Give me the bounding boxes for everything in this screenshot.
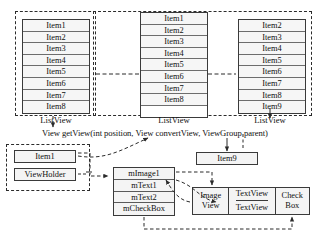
list-item[interactable]: Item1 [141, 13, 207, 25]
list-item[interactable]: Item4 [141, 48, 207, 60]
check-box-line2: Box [285, 201, 299, 211]
list-item[interactable]: Item5 [23, 66, 89, 78]
text-view-widget-2[interactable]: TextView [236, 201, 268, 214]
list-item[interactable]: Item3 [23, 43, 89, 55]
text-view-widget-1[interactable]: TextView [236, 188, 268, 201]
item-layout-widgets[interactable]: Image View TextView TextView Check Box [192, 187, 310, 215]
list-item[interactable]: Item5 [239, 55, 305, 67]
list-item[interactable]: Item8 [141, 94, 207, 106]
check-box-line1: Check [282, 191, 303, 201]
listview-left-caption: ListView [22, 115, 90, 125]
check-box-widget[interactable]: Check Box [276, 188, 309, 214]
list-item[interactable]: Item9 [239, 101, 305, 113]
list-item[interactable]: Item7 [23, 90, 89, 102]
list-item[interactable]: Item2 [23, 32, 89, 44]
listview-left[interactable]: Item1 Item2 Item3 Item4 Item5 Item6 Item… [22, 19, 90, 114]
list-item[interactable]: Item6 [239, 66, 305, 78]
listview-right[interactable]: Item2 Item3 Item4 Item5 Item6 Item7 Item… [238, 19, 306, 114]
list-item[interactable]: Item3 [239, 32, 305, 44]
list-item[interactable]: Item4 [239, 43, 305, 55]
list-item[interactable]: Item6 [141, 71, 207, 83]
field-mtext2[interactable]: mText2 [114, 192, 174, 204]
list-item[interactable]: Item7 [239, 78, 305, 90]
listview-middle-caption: ListView [140, 115, 208, 125]
getview-signature: View getView(int position, View convertV… [42, 128, 268, 138]
text-view-widgets[interactable]: TextView TextView [229, 188, 275, 214]
listview-middle[interactable]: Item1 Item2 Item3 Item4 Item5 Item6 Item… [140, 12, 208, 118]
list-item[interactable]: Item8 [23, 101, 89, 113]
list-item[interactable]: Item1 [23, 20, 89, 32]
list-item[interactable]: Item5 [141, 59, 207, 71]
dashed-mimage-to-imageview [176, 172, 212, 185]
list-item[interactable]: Item2 [141, 25, 207, 37]
field-mimage1[interactable]: mImage1 [114, 168, 174, 180]
field-mcheckbox[interactable]: mCheckBox [114, 203, 174, 215]
list-item[interactable]: Item6 [23, 78, 89, 90]
viewholder-box[interactable]: ViewHolder [14, 168, 76, 181]
listview-right-caption: ListView [236, 115, 304, 125]
list-item[interactable]: Item2 [239, 20, 305, 32]
convertview-item-box[interactable]: Item1 [14, 150, 76, 163]
list-item[interactable]: Item3 [141, 36, 207, 48]
list-item[interactable]: Item8 [239, 90, 305, 102]
image-view-line1: Image [200, 191, 221, 201]
list-item[interactable]: Item4 [23, 55, 89, 67]
dashed-mcheckbox-to-checkbox [144, 217, 292, 229]
image-view-line2: View [202, 201, 220, 211]
diagram-canvas: Item1 Item2 Item3 Item4 Item5 Item6 Item… [0, 0, 323, 241]
new-item-box[interactable]: Item9 [196, 152, 258, 165]
list-item[interactable]: Item7 [141, 83, 207, 95]
viewholder-fields[interactable]: mImage1 mText1 mText2 mCheckBox [113, 167, 175, 216]
image-view-widget[interactable]: Image View [193, 188, 229, 214]
field-mtext1[interactable]: mText1 [114, 180, 174, 192]
